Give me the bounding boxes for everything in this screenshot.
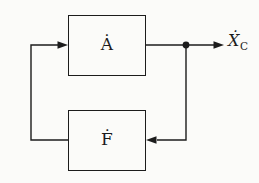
block-a: Ȧ (68, 15, 146, 76)
arrowhead-into-block-f-icon (146, 136, 157, 144)
arrowhead-into-block-a-icon (58, 41, 69, 49)
arrowhead-output-icon (214, 41, 225, 49)
block-diagram: Ȧ Ḟ ẊC (0, 0, 259, 183)
right-feedback-line (157, 45, 186, 140)
block-a-label: Ȧ (101, 36, 113, 55)
block-f-label: Ḟ (101, 131, 113, 150)
block-f: Ḟ (68, 110, 146, 171)
output-signal-subscript: C (240, 40, 248, 52)
pickoff-dot (183, 42, 190, 49)
left-feedback-line (31, 45, 68, 140)
output-signal-label: ẊC (228, 31, 248, 52)
output-signal-base: Ẋ (228, 31, 239, 50)
